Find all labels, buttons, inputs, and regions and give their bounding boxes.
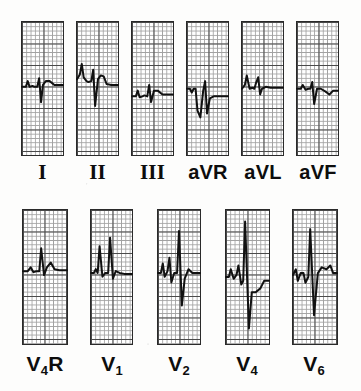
lead-label-aVF: aVF	[292, 161, 344, 184]
lead-label-aVR: aVR	[182, 161, 234, 184]
lead-label-V4-main: V	[236, 352, 250, 375]
ecg-panel-aVR	[186, 21, 229, 156]
ecg-panel-V6	[292, 209, 338, 345]
ecg-trace-III	[132, 22, 173, 151]
ecg-trace-II	[77, 22, 118, 151]
lead-label-V4-sub: 4	[250, 363, 257, 378]
lead-label-V6-sub: 6	[317, 363, 324, 378]
lead-label-V2-main: V	[168, 352, 182, 375]
lead-label-II: II	[76, 160, 119, 185]
ecg-trace-I	[22, 22, 63, 151]
lead-label-V2-sub: 2	[182, 363, 189, 378]
lead-label-V2: V2	[155, 352, 203, 378]
ecg-panel-aVF	[296, 21, 339, 156]
lead-label-I: I	[21, 160, 64, 185]
ecg-figure: I II III aVR	[0, 0, 361, 391]
lead-label-V4R-main: V	[26, 352, 40, 375]
lead-label-V4: V4	[223, 352, 271, 378]
ecg-panel-V4R	[22, 209, 68, 345]
ecg-trace-aVL	[242, 22, 283, 151]
ecg-panel-III	[131, 21, 174, 156]
ecg-trace-V6	[293, 210, 337, 340]
lead-label-V6: V6	[290, 352, 338, 378]
ecg-panel-V2	[157, 209, 201, 345]
lead-label-V4R: V4R	[18, 352, 72, 378]
lead-label-V4R-post: R	[48, 352, 63, 375]
ecg-panel-I	[21, 21, 64, 156]
ecg-panel-V4	[225, 209, 270, 345]
lead-label-V1-main: V	[101, 352, 115, 375]
lead-label-III: III	[131, 160, 174, 185]
lead-label-V6-main: V	[303, 352, 317, 375]
ecg-panel-II	[76, 21, 119, 156]
ecg-panel-V1	[90, 209, 133, 345]
lead-label-V1: V1	[88, 352, 136, 378]
ecg-trace-V2	[158, 210, 200, 340]
ecg-trace-V1	[91, 210, 132, 340]
ecg-trace-aVR	[187, 22, 228, 151]
ecg-trace-V4R	[23, 210, 67, 340]
lead-label-V1-sub: 1	[115, 363, 122, 378]
ecg-trace-aVF	[297, 22, 338, 151]
ecg-trace-V4	[226, 210, 269, 340]
ecg-panel-aVL	[241, 21, 284, 156]
lead-label-aVL: aVL	[237, 161, 289, 184]
